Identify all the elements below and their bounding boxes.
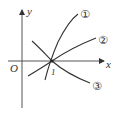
curve-3	[32, 41, 90, 83]
curve-2	[28, 38, 96, 76]
x-axis-label: x	[105, 58, 111, 70]
function-graph: y x O 1 ① ② ③	[0, 0, 116, 119]
y-axis-label: y	[26, 5, 32, 17]
curve-2-label: ②	[98, 34, 108, 47]
origin-label: O	[10, 62, 18, 74]
tick-label-1: 1	[51, 67, 56, 77]
curve-1	[45, 14, 78, 80]
intersection-point	[50, 59, 53, 62]
curve-3-label: ③	[92, 80, 102, 93]
curve-1-label: ①	[80, 8, 90, 21]
